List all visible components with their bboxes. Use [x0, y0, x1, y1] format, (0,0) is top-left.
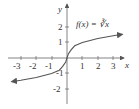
function-label: f(x) = ∛x	[76, 18, 109, 29]
x-tick-label: 1	[80, 61, 85, 71]
x-tick-label: -3	[13, 61, 21, 71]
x-tick-label: 2	[96, 61, 101, 71]
y-axis-label: y	[57, 4, 62, 14]
x-tick-label: -2	[29, 61, 37, 71]
y-tick-label: -2	[53, 84, 61, 94]
x-tick-label: -1	[45, 61, 53, 71]
cube-root-graph: -3 -2 -1 1 2 3 x 2 1 -1 -2 y f(x) = ∛x	[0, 0, 139, 109]
x-axis-label: x	[124, 60, 129, 70]
y-tick-label: 1	[58, 37, 63, 47]
x-tick-label: 3	[111, 61, 116, 71]
y-tick-label: 2	[58, 22, 63, 32]
